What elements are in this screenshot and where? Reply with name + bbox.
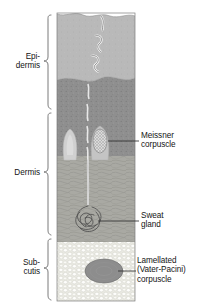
brace-label-epidermis: Epi- dermis — [2, 52, 40, 71]
callout-lamellated-line3: corpuscle — [137, 275, 172, 284]
brace-dermis — [44, 113, 51, 235]
skin-diagram-panel — [57, 13, 135, 301]
callout-meissner-line2: corpuscle — [141, 140, 176, 149]
callout-sweat-line1: Sweat — [141, 211, 164, 220]
brace-epidermis — [44, 15, 51, 109]
brace-label-dermis: Dermis — [2, 168, 40, 177]
callout-label-sweat-gland: Sweatgland — [141, 211, 164, 230]
callout-label-meissner-corpuscle: Meissnercorpuscle — [141, 131, 176, 150]
callout-lamellated-line2: (Vater-Pacini) — [137, 265, 186, 274]
brace-label-subcutis: Sub- cutis — [2, 258, 40, 277]
callout-meissner-line1: Meissner — [141, 131, 174, 140]
layer-braces — [44, 15, 51, 300]
callout-lamellated-line1: Lamellated — [137, 256, 177, 265]
callout-sweat-line2: gland — [141, 220, 161, 229]
brace-subcutis — [44, 239, 51, 300]
callout-label-lamellated-corpuscle: Lamellated(Vater-Pacini)corpuscle — [137, 256, 186, 284]
